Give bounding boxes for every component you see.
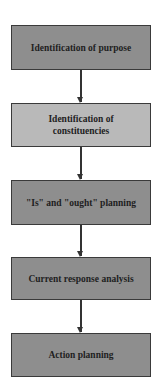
- step-current-response-analysis: Current response analysis: [11, 257, 151, 300]
- step-label: Current response analysis: [28, 273, 133, 285]
- arrow-down: [80, 70, 82, 102]
- step-label: "Is" and "ought" planning: [26, 197, 136, 209]
- step-label: Identification of constituencies: [34, 113, 128, 137]
- step-label: Action planning: [48, 349, 113, 361]
- step-identification-of-constituencies: Identification of constituencies: [11, 103, 151, 147]
- step-is-and-ought-planning: "Is" and "ought" planning: [11, 180, 151, 225]
- step-action-planning: Action planning: [11, 333, 151, 377]
- step-identification-of-purpose: Identification of purpose: [11, 25, 151, 70]
- arrow-down: [80, 300, 82, 332]
- arrow-down: [80, 225, 82, 256]
- step-label: Identification of purpose: [31, 42, 131, 54]
- arrow-down: [80, 147, 82, 179]
